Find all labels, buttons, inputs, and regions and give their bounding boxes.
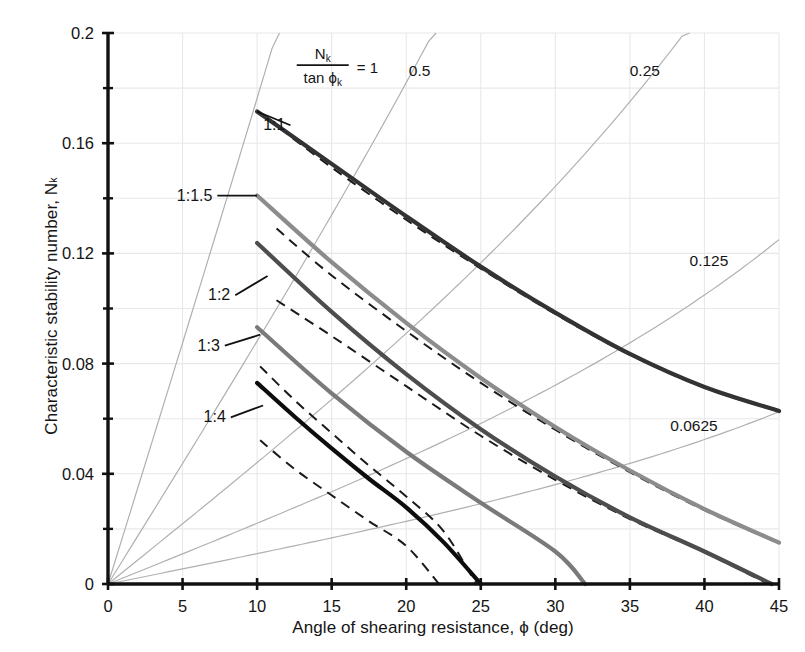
formula-numerator: Nk: [315, 45, 332, 64]
y-tick-label: 0.12: [62, 244, 94, 262]
chart-figure: 05101520253035404500.040.080.120.160.21:…: [0, 0, 805, 652]
x-tick-label: 10: [248, 597, 266, 615]
curve-label-1:3: 1:3: [198, 337, 220, 354]
x-tick-label: 5: [178, 597, 187, 615]
ray-label-0.125: 0.125: [690, 252, 729, 269]
y-tick-label: 0.2: [71, 24, 94, 42]
y-tick-label: 0.04: [62, 465, 94, 483]
y-tick-label: 0: [85, 575, 94, 593]
x-tick-label: 45: [770, 597, 788, 615]
x-tick-label: 15: [322, 597, 340, 615]
x-tick-label: 30: [546, 597, 564, 615]
ray-label-0.0625: 0.0625: [670, 417, 717, 434]
x-tick-label: 25: [472, 597, 490, 615]
chart-plot-area: 05101520253035404500.040.080.120.160.21:…: [0, 0, 805, 652]
x-tick-label: 20: [397, 597, 415, 615]
x-axis-title: Angle of shearing resistance, ϕ (deg): [208, 618, 658, 638]
formula-equals-one: = 1: [357, 59, 378, 76]
gridlines: [108, 33, 779, 584]
x-tick-label: 40: [695, 597, 713, 615]
ray-label-0.25: 0.25: [630, 62, 660, 79]
curve-dashed-1:2: [277, 300, 769, 584]
ray-label-0.5: 0.5: [409, 62, 431, 79]
curve-1:3: [257, 327, 585, 584]
curve-1:2: [257, 243, 771, 584]
leader-line-1:4: [231, 405, 263, 417]
y-axis-title: Characteristic stability number, Nk: [42, 106, 62, 506]
curve-label-1:1.5: 1:1.5: [177, 187, 213, 204]
curve-label-1:2: 1:2: [208, 286, 230, 303]
leader-line-1:2: [235, 276, 267, 295]
formula-annotation: Nktan ϕk= 1: [297, 45, 378, 88]
x-tick-label: 0: [103, 597, 112, 615]
x-tick-label: 35: [621, 597, 639, 615]
y-tick-label: 0.16: [62, 134, 94, 152]
formula-denominator: tan ϕk: [304, 69, 343, 88]
curve-label-1:4: 1:4: [204, 408, 226, 425]
data-curves: [257, 112, 779, 584]
y-tick-label: 0.08: [62, 355, 94, 373]
